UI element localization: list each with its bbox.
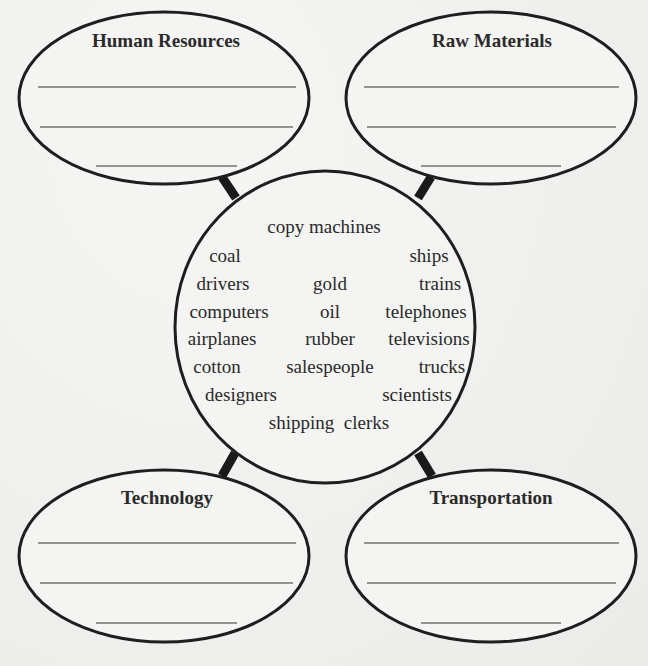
category-title-technology: Technology xyxy=(121,487,213,509)
word-salespeople[interactable]: salespeople xyxy=(286,357,374,376)
connector-human-resources xyxy=(222,177,236,198)
word-oil[interactable]: oil xyxy=(320,302,340,321)
word-drivers[interactable]: drivers xyxy=(197,274,250,293)
category-title-raw-materials: Raw Materials xyxy=(432,30,552,52)
connector-raw-materials xyxy=(418,177,431,198)
word-coal[interactable]: coal xyxy=(209,246,241,265)
word-rubber[interactable]: rubber xyxy=(305,329,355,348)
word-telephones[interactable]: telephones xyxy=(385,302,466,321)
word-designers[interactable]: designers xyxy=(205,385,277,404)
word-ships[interactable]: ships xyxy=(409,246,448,265)
category-title-transportation: Transportation xyxy=(429,487,552,509)
category-title-human-resources: Human Resources xyxy=(92,30,240,52)
word-trucks[interactable]: trucks xyxy=(419,357,465,376)
word-scientists[interactable]: scientists xyxy=(382,385,452,404)
word-televisions[interactable]: televisions xyxy=(388,329,469,348)
connector-technology xyxy=(222,453,235,476)
word-shipping-clerks[interactable]: shipping clerks xyxy=(269,413,389,432)
connector-transportation xyxy=(418,453,432,476)
word-cotton[interactable]: cotton xyxy=(193,357,241,376)
word-computers[interactable]: computers xyxy=(189,302,268,321)
word-airplanes[interactable]: airplanes xyxy=(188,329,257,348)
word-trains[interactable]: trains xyxy=(419,274,461,293)
word-copy-machines[interactable]: copy machines xyxy=(267,217,380,236)
word-gold[interactable]: gold xyxy=(313,274,347,293)
